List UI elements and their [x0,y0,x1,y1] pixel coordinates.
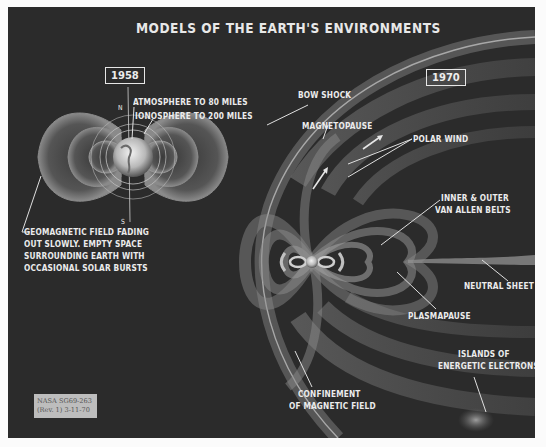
nasa-reference-stamp: NASA SG69-263 (Rev. 1) 3-11-70 [34,394,97,418]
model-1970 [245,37,535,438]
label-magnetopause: MAGNETOPAUSE [302,121,372,132]
label-north: N [118,103,123,114]
label-ionosphere: IONOSPHERE TO 200 MILES [135,111,253,122]
label-neutral-sheet: NEUTRAL SHEET [464,281,534,292]
label-polar-wind: POLAR WIND [413,134,468,145]
year-badge-1958: 1958 [105,67,145,84]
label-bow-shock: BOW SHOCK [298,90,351,101]
year-badge-1970: 1970 [426,69,466,86]
diagram-board: MODELS OF THE EARTH'S ENVIRONMENTS 1958 … [8,7,535,438]
stamp-line-2: (Rev. 1) 3-11-70 [37,406,97,415]
label-atmosphere: ATMOSPHERE TO 80 MILES [133,97,248,108]
label-plasmapause: PLASMAPAUSE [408,311,471,322]
model-1958 [22,87,228,232]
page-title: MODELS OF THE EARTH'S ENVIRONMENTS [136,20,441,36]
stamp-line-1: NASA SG69-263 [37,397,97,406]
